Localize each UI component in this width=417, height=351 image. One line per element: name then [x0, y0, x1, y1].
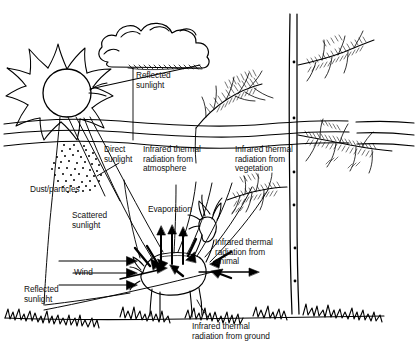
label-infrared-ground: Infrared thermal radiation from ground	[192, 322, 270, 341]
evaporation-arrows	[157, 225, 187, 265]
label-evaporation: Evaporation	[148, 205, 192, 215]
label-infrared-animal: Infrared thermal radiation from animal	[215, 238, 273, 267]
atmosphere-layers	[4, 119, 414, 148]
diagram-artwork	[0, 0, 417, 351]
cloud-icon	[99, 23, 209, 69]
label-reflected-sunlight-cloud: Reflected sunlight	[136, 71, 171, 90]
label-direct-sunlight: Direct sunlight	[104, 145, 132, 164]
pine-branch-lower-left	[227, 173, 287, 214]
tall-pine-tree-right	[289, 14, 392, 314]
label-wind: Wind	[74, 268, 93, 278]
label-dust-particles: Dust/particles	[30, 185, 80, 195]
label-scattered-sunlight: Scattered sunlight	[72, 211, 107, 230]
wind-arrows	[59, 257, 137, 290]
energy-exchange-diagram: Reflected sunlight Direct sunlight Infra…	[0, 0, 417, 351]
label-reflected-sunlight-ground: Reflected sunlight	[24, 285, 59, 304]
label-infrared-vegetation: Infrared thermal radiation from vegetati…	[235, 145, 293, 174]
label-infrared-atmosphere: Infrared thermal radiation from atmosphe…	[143, 145, 201, 174]
